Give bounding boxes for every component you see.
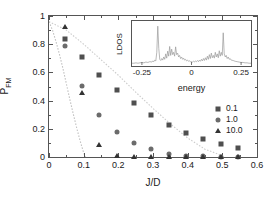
x-tick-minor: [240, 16, 241, 18]
legend-label: 0.1: [226, 104, 238, 113]
y-tick-minor: [255, 30, 257, 31]
data-point-triangle: [131, 154, 137, 159]
data-point-square: [218, 142, 223, 147]
legend-marker-square-icon: [212, 103, 226, 114]
inset-x-tick-label: -0.25: [133, 69, 151, 77]
inset-y-axis-label: LDOS: [116, 33, 124, 55]
data-point-square: [114, 87, 119, 92]
data-point-triangle: [166, 154, 172, 159]
data-point-triangle: [62, 24, 68, 29]
x-tick-mark: [49, 153, 50, 157]
data-point-triangle: [79, 90, 85, 95]
x-tick-mark: [84, 153, 85, 157]
data-point-triangle: [235, 154, 241, 159]
y-tick-label: 0.8: [32, 40, 45, 49]
x-tick-label: 0: [46, 161, 51, 170]
data-point-circle: [114, 130, 119, 135]
x-tick-label: 0.2: [112, 161, 125, 170]
data-point-triangle: [183, 154, 189, 159]
y-tick-mark: [49, 72, 53, 73]
data-point-square: [201, 137, 206, 142]
y-tick-minor: [49, 58, 51, 59]
data-point-circle: [79, 84, 84, 89]
inset-x-tick-label: 0: [189, 69, 193, 77]
y-tick-mark: [253, 72, 257, 73]
y-axis-label-subscript: FM: [5, 78, 12, 88]
data-point-square: [166, 122, 171, 127]
data-point-circle: [131, 140, 136, 145]
legend-marker-glyph: [216, 107, 221, 112]
x-tick-mark: [257, 153, 258, 157]
y-tick-label: 0.6: [32, 68, 45, 77]
y-tick-minor: [255, 58, 257, 59]
y-tick-minor: [255, 143, 257, 144]
y-tick-label: 0.4: [32, 96, 45, 105]
data-point-triangle: [96, 142, 102, 147]
inset-x-tick-label: 0.25: [233, 69, 249, 77]
legend-marker-triangle-icon: [212, 125, 226, 136]
data-point-circle: [63, 43, 68, 48]
y-tick-minor: [49, 143, 51, 144]
legend-item[interactable]: 10.0: [212, 125, 260, 136]
figure-chart: PFM J/D 00.20.40.60.8100.10.20.30.40.50.…: [0, 0, 269, 201]
y-tick-label: 0: [40, 153, 45, 162]
x-tick-minor: [101, 16, 102, 18]
legend-label: 10.0: [226, 126, 243, 135]
y-axis-label: PFM: [0, 78, 12, 95]
data-point-circle: [97, 112, 102, 117]
data-point-triangle: [148, 154, 154, 159]
data-point-square: [149, 112, 154, 117]
y-tick-minor: [49, 115, 51, 116]
y-tick-minor: [255, 87, 257, 88]
y-tick-minor: [49, 30, 51, 31]
y-tick-label: 1: [40, 12, 45, 21]
legend-item[interactable]: 0.1: [212, 103, 260, 114]
legend-marker-circle-icon: [212, 114, 226, 125]
y-tick-minor: [49, 87, 51, 88]
x-tick-label: 0.1: [77, 161, 90, 170]
legend-item[interactable]: 1.0: [212, 114, 260, 125]
x-tick-mark: [49, 16, 50, 20]
x-axis-label: J/D: [48, 178, 258, 188]
y-tick-mark: [253, 101, 257, 102]
y-tick-mark: [49, 101, 53, 102]
y-tick-mark: [49, 157, 53, 158]
data-point-square: [63, 36, 68, 41]
data-point-square: [97, 72, 102, 77]
data-point-circle: [149, 146, 154, 151]
data-point-square: [131, 100, 136, 105]
x-tick-label: 0.4: [181, 161, 194, 170]
x-tick-minor: [66, 155, 67, 157]
x-tick-label: 0.6: [251, 161, 264, 170]
data-point-triangle: [200, 154, 206, 159]
legend-label: 1.0: [226, 115, 238, 124]
x-tick-minor: [66, 16, 67, 18]
y-tick-mark: [253, 44, 257, 45]
inset-plot-area: [131, 20, 252, 67]
y-tick-mark: [49, 44, 53, 45]
x-tick-mark: [118, 16, 119, 20]
data-point-square: [235, 145, 240, 150]
inset-x-axis-label: energy: [131, 84, 252, 93]
data-point-triangle: [114, 153, 120, 158]
data-point-triangle: [218, 154, 224, 159]
x-tick-minor: [170, 16, 171, 18]
x-tick-label: 0.5: [216, 161, 229, 170]
y-axis-label-base: P: [0, 88, 10, 95]
x-tick-minor: [101, 155, 102, 157]
data-point-square: [79, 54, 84, 59]
inset-ldos-spectrum: [132, 21, 251, 66]
legend-marker-glyph: [216, 118, 221, 123]
x-tick-mark: [84, 16, 85, 20]
x-tick-minor: [205, 16, 206, 18]
x-tick-minor: [136, 16, 137, 18]
y-tick-mark: [49, 129, 53, 130]
inset-ldos-trace: [132, 26, 251, 63]
data-point-square: [183, 130, 188, 135]
x-tick-label: 0.3: [147, 161, 160, 170]
legend-marker-glyph: [215, 128, 221, 133]
x-tick-mark: [257, 16, 258, 20]
y-tick-label: 0.2: [32, 124, 45, 133]
legend: 0.11.010.0: [212, 103, 260, 136]
y-tick-mark: [253, 157, 257, 158]
